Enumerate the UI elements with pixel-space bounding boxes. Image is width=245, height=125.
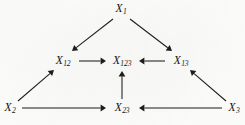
- edge-x12-to-x123: [79, 58, 106, 65]
- node-subscript: 13: [181, 59, 188, 68]
- edge-x3-to-x13: [190, 70, 226, 101]
- arrowhead-icon: [139, 105, 144, 112]
- edge-shaft: [76, 19, 113, 48]
- edge-x3-to-x23: [139, 105, 222, 112]
- node-x13: X13: [174, 55, 189, 67]
- edge-x13-to-x123: [139, 58, 165, 65]
- node-subscript: 123: [120, 59, 131, 68]
- arrowhead-icon: [166, 45, 172, 51]
- graph-figure: X1X12X123X13X2X23X3: [0, 0, 245, 125]
- node-subscript: 12: [63, 59, 70, 68]
- node-subscript: 3: [236, 106, 240, 115]
- arrowhead-icon: [119, 71, 126, 76]
- edge-shaft: [18, 74, 50, 101]
- node-x23: X23: [115, 102, 130, 114]
- edge-x1-to-x13: [130, 19, 172, 51]
- edge-shaft: [130, 19, 168, 48]
- node-x12: X12: [56, 55, 71, 67]
- edge-x2-to-x23: [22, 105, 106, 112]
- arrowhead-icon: [101, 105, 106, 112]
- edge-shaft: [194, 74, 226, 101]
- edge-x1-to-x12: [72, 19, 113, 51]
- node-subscript: 23: [122, 106, 129, 115]
- node-subscript: 2: [12, 106, 16, 115]
- arrowhead-icon: [101, 58, 106, 65]
- edge-x23-to-x123: [119, 71, 126, 99]
- arrowhead-icon: [139, 58, 144, 65]
- arrowhead-icon: [72, 45, 78, 51]
- node-x1: X1: [116, 3, 127, 15]
- node-subscript: 1: [123, 7, 127, 16]
- node-x3: X3: [229, 102, 240, 114]
- node-x123: X123: [113, 55, 131, 67]
- edge-x2-to-x12: [18, 70, 54, 101]
- node-x2: X2: [5, 102, 16, 114]
